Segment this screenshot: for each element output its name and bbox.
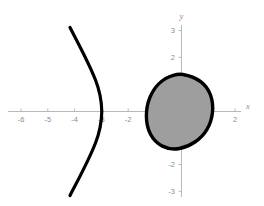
x-tick-label-neg5: -5 xyxy=(44,115,51,124)
x-tick-label-neg2: -2 xyxy=(125,115,132,124)
y-axis-label: y xyxy=(179,11,184,21)
plot-figure: -6 -5 -4 -3 -2 -1 2 3 2 1 -1 -2 -3 x y xyxy=(0,0,264,206)
y-tick-label-neg3: -3 xyxy=(168,187,175,196)
plot-canvas: -6 -5 -4 -3 -2 -1 2 3 2 1 -1 -2 -3 x y xyxy=(0,0,264,206)
x-tick-label-neg6: -6 xyxy=(18,115,25,124)
y-tick-label-3: 3 xyxy=(171,26,175,35)
x-tick-label-2: 2 xyxy=(233,115,237,124)
x-tick-label-neg4: -4 xyxy=(71,115,78,124)
shaded-oval-region xyxy=(146,74,212,149)
x-axis-label: x xyxy=(245,101,250,111)
y-tick-label-neg2: -2 xyxy=(168,160,175,169)
y-tick-label-2: 2 xyxy=(171,53,175,62)
